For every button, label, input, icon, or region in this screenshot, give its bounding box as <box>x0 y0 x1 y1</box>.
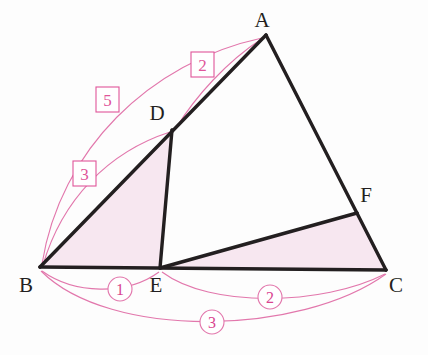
vertex-label-A: A <box>254 8 270 32</box>
circle-label-be-value: 1 <box>116 281 124 298</box>
vertex-dot-A <box>264 33 267 36</box>
circle-label-bc: 3 <box>200 310 224 334</box>
vertex-label-E: E <box>150 273 163 297</box>
box-label-ad: 2 <box>191 52 214 77</box>
circle-label-be: 1 <box>108 277 132 301</box>
box-label-bd-value: 3 <box>80 165 89 184</box>
circle-label-bc-value: 3 <box>208 314 216 331</box>
shaded-regions-group <box>40 130 386 270</box>
circle-labels-group: 1 2 3 <box>108 277 282 334</box>
shaded-triangle-EFC <box>160 213 386 270</box>
circle-label-ec-value: 2 <box>266 289 274 306</box>
vertex-dot-E <box>158 266 161 269</box>
vertex-dot-F <box>355 211 358 214</box>
circle-label-ec: 2 <box>258 285 282 309</box>
vertex-dot-D <box>170 128 173 131</box>
box-label-bd: 3 <box>73 161 96 186</box>
box-label-ba-value: 5 <box>103 91 112 110</box>
vertex-label-C: C <box>389 273 403 297</box>
vertex-label-F: F <box>360 183 372 207</box>
box-label-ad-value: 2 <box>198 56 207 75</box>
box-label-ba: 5 <box>96 87 119 112</box>
geometry-figure: A B C D E F 2 5 3 1 <box>0 0 428 355</box>
vertex-label-D: D <box>149 101 164 125</box>
vertex-dot-B <box>38 265 41 268</box>
vertex-dot-C <box>384 268 387 271</box>
vertex-label-B: B <box>19 273 33 297</box>
geometry-canvas: A B C D E F 2 5 3 1 <box>0 0 428 355</box>
